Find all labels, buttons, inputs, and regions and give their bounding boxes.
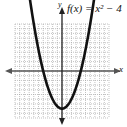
y-axis-label: y — [58, 0, 62, 9]
function-label: f(x) = x² − 4 — [67, 2, 122, 14]
x-axis-label: x — [119, 64, 123, 74]
function-graph — [0, 0, 127, 127]
